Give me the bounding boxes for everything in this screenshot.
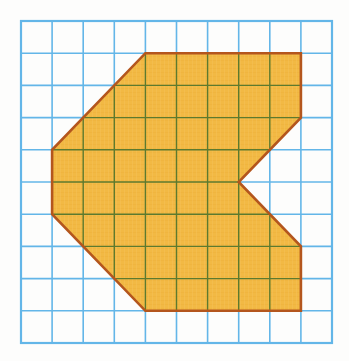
figure-root (0, 0, 349, 361)
grid-polygon-figure (0, 0, 349, 361)
